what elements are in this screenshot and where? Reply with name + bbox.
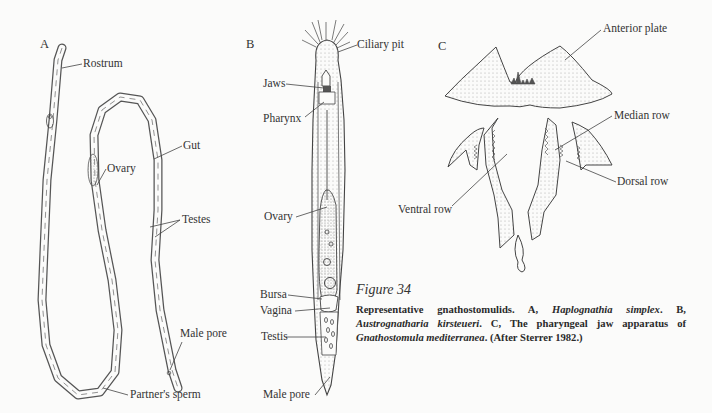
label-jaws: Jaws (263, 78, 285, 90)
label-ovary-b: Ovary (264, 211, 293, 223)
label-vagina: Vagina (260, 305, 292, 317)
panel-letter-a: A (40, 38, 49, 51)
caption-c-label: C, The pharyngeal jaw apparatus of (491, 318, 686, 329)
label-ciliary-pit: Ciliary pit (357, 39, 404, 51)
label-median-row: Median row (614, 110, 670, 122)
label-pharynx: Pharynx (263, 113, 301, 125)
label-ovary-a: Ovary (107, 163, 136, 175)
panel-c-leader-lines (452, 30, 616, 206)
pharyngeal-jaw-drawing (445, 46, 612, 272)
label-male-pore-b: Male pore (263, 389, 310, 401)
label-bursa: Bursa (260, 289, 287, 301)
caption-source: (After Sterrer 1982.) (490, 332, 583, 343)
caption-a-species: Haplognathia simplex (552, 304, 660, 315)
label-rostrum: Rostrum (83, 58, 123, 70)
figure-title: Figure 34 (356, 282, 411, 298)
caption-c-species: Gnathostomula mediterranea (356, 332, 485, 343)
label-dorsal-row: Dorsal row (617, 176, 668, 188)
haplognathia-worm-drawing (42, 48, 178, 395)
figure-caption: Representative gnathostomulids. A, Haplo… (356, 303, 686, 345)
panel-letter-c: C (438, 40, 446, 53)
panel-letter-b: B (246, 38, 254, 51)
label-testes: Testes (182, 214, 211, 226)
caption-intro: Representative gnathostomulids. (356, 304, 515, 315)
caption-b-species: Austrognatharia kirsteueri (356, 318, 479, 329)
caption-a-label: A, (528, 304, 538, 315)
label-gut: Gut (183, 140, 200, 152)
label-partners-sperm: Partner's sperm (130, 389, 201, 401)
caption-b-label: B, (676, 304, 686, 315)
label-testis: Testis (261, 331, 288, 343)
label-anterior-plate: Anterior plate (603, 23, 667, 35)
label-male-pore-a: Male pore (180, 328, 227, 340)
label-ventral-row: Ventral row (398, 204, 452, 216)
